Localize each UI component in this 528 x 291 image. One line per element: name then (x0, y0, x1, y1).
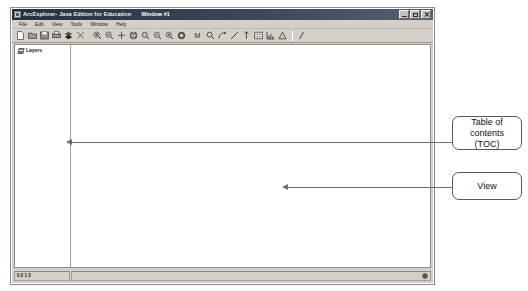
table-of-contents-pane[interactable]: Layers (15, 45, 71, 267)
client-area: Layers (14, 44, 431, 268)
screenshot-root: ArcExplorer- Java Edition for Education … (0, 0, 528, 291)
window-controls (399, 10, 432, 19)
toc-header[interactable]: Layers (15, 45, 70, 54)
menu-item-help[interactable]: Help (112, 21, 130, 28)
menu-item-file[interactable]: File (15, 21, 31, 28)
zoom-in-icon (93, 31, 102, 40)
svg-text:M: M (194, 32, 200, 39)
globe-button[interactable] (128, 30, 139, 41)
title-bar[interactable]: ArcExplorer- Java Edition for Education … (12, 9, 433, 20)
chart-button[interactable] (265, 30, 276, 41)
maximize-button[interactable] (410, 10, 420, 19)
menu-item-edit[interactable]: Edit (31, 21, 48, 28)
zoom-to-layer-icon (141, 31, 150, 40)
chart-icon (266, 31, 275, 40)
zoom-previous-button[interactable] (152, 30, 163, 41)
table-button[interactable] (253, 30, 264, 41)
new-document-icon (16, 31, 25, 40)
cut-icon (76, 31, 85, 40)
layers-icon (17, 48, 24, 54)
document-title: Window #1 (141, 11, 170, 18)
zoom-to-layer-button[interactable] (140, 30, 151, 41)
view-callout: View (452, 172, 522, 200)
toc-callout-text: Table of contents (TOC) (457, 117, 517, 150)
cut-button[interactable] (75, 30, 86, 41)
status-indicator-icon (422, 273, 428, 279)
hotlink-icon (242, 31, 251, 40)
identify-button[interactable]: M (193, 30, 204, 41)
query-button[interactable] (217, 30, 228, 41)
toc-arrow-head (66, 139, 72, 145)
zoom-in-button[interactable] (92, 30, 103, 41)
arcexplorer-window: ArcExplorer- Java Edition for Education … (10, 7, 435, 285)
query-icon (218, 31, 227, 40)
zoom-next-icon (165, 31, 174, 40)
zoom-previous-icon (153, 31, 162, 40)
legend-button[interactable] (277, 30, 288, 41)
maximize-icon (413, 13, 418, 17)
full-extent-button[interactable] (176, 30, 187, 41)
print-button[interactable] (51, 30, 62, 41)
save-icon (40, 31, 49, 40)
legend-icon (278, 31, 287, 40)
menu-item-view[interactable]: View (48, 21, 67, 28)
open-folder-button[interactable] (27, 30, 38, 41)
open-folder-icon (28, 31, 37, 40)
status-bar: 0.0 1 0 (14, 271, 431, 281)
menu-item-tools[interactable]: Tools (66, 21, 86, 28)
zoom-out-button[interactable] (104, 30, 115, 41)
find-icon (206, 31, 215, 40)
globe-icon (129, 31, 138, 40)
app-icon (14, 11, 21, 18)
view-callout-text: View (477, 181, 496, 192)
save-button[interactable] (39, 30, 50, 41)
help-pointer-icon (297, 31, 306, 40)
zoom-out-icon (105, 31, 114, 40)
add-layer-icon (64, 31, 73, 40)
identify-icon: M (194, 31, 203, 40)
window-title: ArcExplorer- Java Edition for Education (23, 11, 131, 18)
find-button[interactable] (205, 30, 216, 41)
pan-icon (117, 31, 126, 40)
full-extent-icon (177, 31, 186, 40)
minimize-icon (402, 16, 407, 17)
map-view-pane[interactable] (71, 45, 430, 267)
toc-callout: Table of contents (TOC) (452, 116, 522, 150)
view-arrow-head (282, 184, 288, 190)
measure-icon (230, 31, 239, 40)
status-message-area (71, 271, 431, 281)
close-button[interactable] (421, 10, 431, 19)
toolbar-separator (292, 31, 293, 41)
toolbar: M (12, 29, 433, 43)
zoom-next-button[interactable] (164, 30, 175, 41)
print-icon (52, 31, 61, 40)
toc-label: Layers (26, 47, 42, 54)
pan-button[interactable] (116, 30, 127, 41)
new-document-button[interactable] (15, 30, 26, 41)
add-layer-button[interactable] (63, 30, 74, 41)
toc-leader-line (72, 142, 452, 143)
help-pointer-button[interactable] (296, 30, 307, 41)
status-coordinates: 0.0 1 0 (14, 271, 70, 281)
hotlink-button[interactable] (241, 30, 252, 41)
status-coordinates-text: 0.0 1 0 (17, 273, 31, 279)
menu-item-window[interactable]: Window (86, 21, 112, 28)
menu-bar: File Edit View Tools Window Help (12, 20, 433, 29)
minimize-button[interactable] (399, 10, 409, 19)
table-icon (254, 31, 263, 40)
measure-button[interactable] (229, 30, 240, 41)
view-leader-line (288, 187, 452, 188)
